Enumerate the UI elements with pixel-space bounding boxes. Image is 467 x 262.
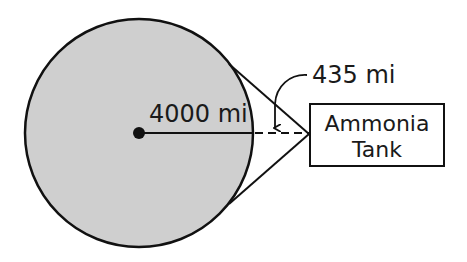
pointer-arrow	[275, 75, 307, 128]
distance-label: 435 mi	[312, 61, 395, 89]
tank-label-line1: Ammonia	[325, 111, 430, 136]
radius-label: 4000 mi	[149, 100, 248, 128]
tank-label-line2: Tank	[351, 137, 402, 162]
earth-ammonia-tank-diagram: 4000 mi 435 mi Ammonia Tank	[0, 0, 467, 262]
center-dot	[133, 127, 145, 139]
